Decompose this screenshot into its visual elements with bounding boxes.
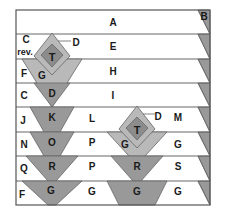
col2-triangle-1-label: G xyxy=(133,186,141,197)
row-7-center-label: G xyxy=(88,186,96,197)
row-4-right-label: M xyxy=(174,112,182,123)
col1-triangle-2-label: O xyxy=(48,137,56,148)
row-6-left-label: Q xyxy=(20,163,28,174)
col1-triangle-0-label: D xyxy=(48,88,55,99)
col1-triangle-1-label: K xyxy=(48,112,56,123)
row-6-center-label: P xyxy=(89,161,96,172)
row-3-left-label: C xyxy=(20,90,27,101)
row-7-left-label: F xyxy=(19,189,25,200)
col1-pointer-label: D xyxy=(72,37,79,48)
row-7-right-label: G xyxy=(174,186,182,197)
row-1-left2-label: rev. xyxy=(17,47,32,57)
row-2-center-label: H xyxy=(109,66,116,77)
col2-pointer-label: D xyxy=(154,111,161,122)
layer-diagram: B A C rev. E D T F G H C D I J K L D M T… xyxy=(0,0,226,215)
row-3-center-label: I xyxy=(112,90,115,101)
row-5-left-label: N xyxy=(20,139,27,150)
corner-label: B xyxy=(200,11,207,22)
row-4-left-label: J xyxy=(20,115,26,126)
row-5-right-label: G xyxy=(174,139,182,150)
col1-diamond-outer-label: G xyxy=(38,70,46,81)
col2-diamond-outer-label: G xyxy=(121,139,129,150)
col2-triangle-0-label: R xyxy=(133,161,141,172)
row-0-center-label: A xyxy=(109,17,116,28)
row-1-center-label: E xyxy=(110,41,117,52)
row-6-right-label: S xyxy=(175,161,182,172)
row-2-left-label: F xyxy=(21,68,27,79)
col1-diamond-inner-label: T xyxy=(49,51,56,63)
row-1-left-label: C xyxy=(22,34,29,45)
row-5-center-label: P xyxy=(89,137,96,148)
row-4-center-label: L xyxy=(89,113,95,124)
col2-diamond-inner-label: T xyxy=(134,124,141,136)
col1-triangle-4-label: G xyxy=(47,185,55,196)
col1-triangle-3-label: R xyxy=(48,161,56,172)
